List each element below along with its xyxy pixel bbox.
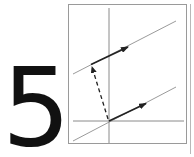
upper-line xyxy=(73,21,176,74)
vector-diagram xyxy=(0,0,194,157)
diagram-frame xyxy=(69,5,187,144)
lower-vector-arrow xyxy=(109,104,146,122)
dashed-offset-arrow xyxy=(92,67,108,119)
adjacent-frame-edge xyxy=(190,4,194,154)
